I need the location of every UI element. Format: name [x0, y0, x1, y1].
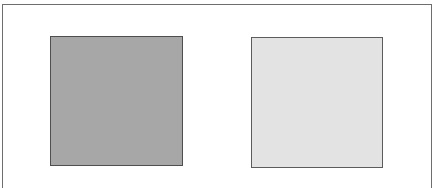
figure-canvas: [0, 0, 439, 188]
light-gray-square: [251, 37, 383, 168]
dark-gray-square: [50, 36, 183, 166]
